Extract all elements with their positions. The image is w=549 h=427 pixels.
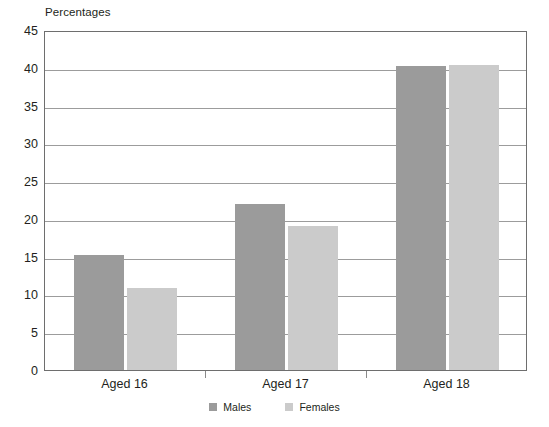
legend-label: Males	[223, 401, 251, 413]
legend-swatch-icon	[285, 403, 293, 411]
y-axis-tick-label: 40	[8, 62, 38, 76]
y-axis-tick-label: 25	[8, 175, 38, 189]
y-axis-tick-label: 5	[8, 326, 38, 340]
legend-item-females[interactable]: Females	[285, 401, 339, 413]
chart-title: Percentages	[45, 6, 111, 18]
x-axis-tick	[205, 371, 206, 378]
bar-chart: Percentages 051015202530354045 Aged 16Ag…	[0, 0, 549, 427]
y-axis-tick-label: 20	[8, 213, 38, 227]
y-axis-tick-label: 0	[8, 364, 38, 378]
plot-area	[44, 31, 527, 371]
y-axis-tick-label: 30	[8, 137, 38, 151]
x-axis-category-label: Aged 16	[101, 377, 148, 391]
x-axis-category-label: Aged 18	[423, 377, 470, 391]
y-axis-tick-label: 15	[8, 251, 38, 265]
bar-males-aged-18	[396, 66, 446, 370]
bar-males-aged-16	[74, 255, 124, 370]
y-axis-tick-label: 10	[8, 288, 38, 302]
y-axis-tick-label: 45	[8, 24, 38, 38]
bar-females-aged-18	[449, 65, 499, 370]
x-axis-tick	[366, 371, 367, 378]
bar-males-aged-17	[235, 204, 285, 370]
chart-legend: MalesFemales	[0, 401, 549, 413]
legend-item-males[interactable]: Males	[209, 401, 251, 413]
y-axis-tick-label: 35	[8, 100, 38, 114]
legend-label: Females	[299, 401, 339, 413]
legend-swatch-icon	[209, 403, 217, 411]
bar-females-aged-16	[127, 288, 177, 370]
bar-females-aged-17	[288, 226, 338, 370]
x-axis-category-label: Aged 17	[262, 377, 309, 391]
